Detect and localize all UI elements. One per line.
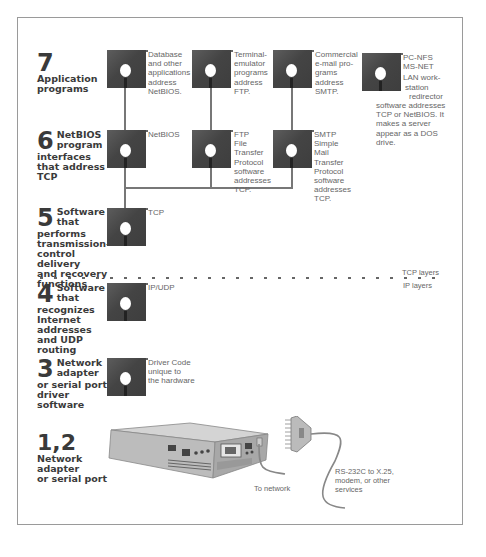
network-adapter-device-icon xyxy=(105,420,275,482)
layer-number: 1,2 xyxy=(37,432,76,454)
disk-icon-netbios xyxy=(107,130,146,168)
disk-icon-driver xyxy=(107,358,146,396)
desc-ip-udp: IP/UDP xyxy=(148,283,175,292)
desc-terminal-emulator: Terminal-emulatorprogramsaddressFTP. xyxy=(234,50,268,96)
layer-number: 7 xyxy=(37,52,54,74)
layer-4-label: 4 Software that recognizes Internet addr… xyxy=(37,283,107,355)
desc-driver: Driver Codeunique tothe hardware xyxy=(148,358,195,386)
disk-icon-tcp xyxy=(107,208,146,246)
disk-icon-email xyxy=(273,50,312,88)
desc-smtp: SMTPSimpleMailTransferProtocolsoftwaread… xyxy=(314,130,351,204)
disk-icon-terminal-emulator xyxy=(192,50,231,88)
layer-number: 5 xyxy=(37,207,54,229)
desc-email: Commerciale-mail pro-gramsaddressSMTP. xyxy=(315,50,358,96)
layer-7-label: 7 Application programs xyxy=(37,52,107,94)
layer-number: 6 xyxy=(37,130,54,152)
layer-6-label: 6 NetBIOS program interfaces that addres… xyxy=(37,130,107,182)
connector-terminal-ftp xyxy=(210,88,212,132)
layer-number: 3 xyxy=(37,358,54,380)
desc-pc-nfs: PC-NFSMS-NET LAN work-stationredirector xyxy=(403,53,443,101)
connector-ftp-bus xyxy=(210,168,212,189)
layer-number: 4 xyxy=(37,283,54,305)
tcp-layers-label: TCP layers xyxy=(402,268,439,277)
layer-3-label: 3 Network adapter or serial port driver … xyxy=(37,358,109,410)
disk-icon-database-apps xyxy=(107,50,146,88)
disk-icon-smtp xyxy=(273,130,312,168)
serial-services-label: RS-232C to X.25,modem, or otherservices xyxy=(335,467,394,494)
connector-email-smtp xyxy=(291,88,293,132)
disk-icon-ip-udp xyxy=(107,283,146,321)
desc-netbios: NetBIOS xyxy=(148,130,180,139)
desc-pc-nfs-continued: software addressesTCP or NetBIOS. Itmake… xyxy=(376,101,445,147)
disk-icon-ftp xyxy=(192,130,231,168)
ip-layers-label: IP layers xyxy=(403,281,432,290)
tcp-ip-boundary-line xyxy=(40,277,444,279)
connector-database-netbios xyxy=(124,88,126,132)
desc-tcp: TCP xyxy=(148,208,164,217)
desc-ftp: FTPFileTransferProtocolsoftwareaddresses… xyxy=(234,130,271,194)
disk-icon-pc-nfs xyxy=(362,53,401,91)
desc-database-apps: Databaseand otherapplicationsaddressNetB… xyxy=(148,50,190,96)
connector-smtp-bus xyxy=(291,168,293,189)
